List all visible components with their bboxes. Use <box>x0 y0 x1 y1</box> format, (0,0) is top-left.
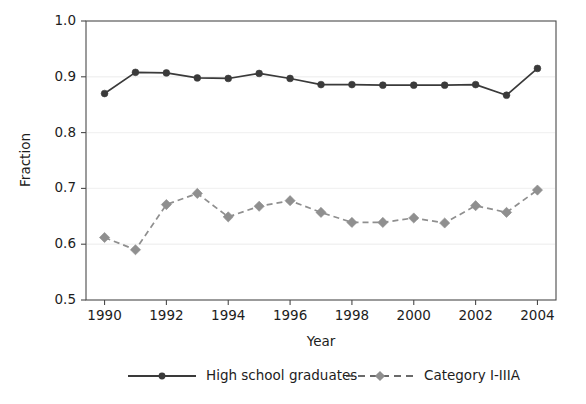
data-point-circle <box>163 69 170 76</box>
y-tick-label: 1.0 <box>55 12 76 28</box>
y-tick-label: 0.6 <box>55 235 76 251</box>
x-tick-label: 1994 <box>211 307 245 323</box>
x-tick-label: 2004 <box>520 307 554 323</box>
data-point-circle <box>318 81 325 88</box>
data-point-circle <box>194 75 201 82</box>
legend-label-secondary: Category I-IIIA <box>424 367 521 383</box>
chart-container: 0.50.60.70.80.91.0 199019921994199619982… <box>0 0 586 404</box>
data-point-circle <box>472 81 479 88</box>
y-tick-label: 0.7 <box>55 179 76 195</box>
x-tick-label: 1998 <box>335 307 369 323</box>
data-point-circle <box>349 81 356 88</box>
line-chart: 0.50.60.70.80.91.0 199019921994199619982… <box>0 0 586 404</box>
data-point-circle <box>534 65 541 72</box>
legend-marker-circle <box>159 373 166 380</box>
data-point-circle <box>441 82 448 89</box>
x-axis-title: Year <box>306 333 336 349</box>
y-tick-label: 0.9 <box>55 68 76 84</box>
x-tick-label: 2002 <box>458 307 492 323</box>
legend-label-primary: High school graduates <box>206 367 357 383</box>
data-point-circle <box>410 82 417 89</box>
data-point-circle <box>101 90 108 97</box>
data-point-circle <box>256 70 263 77</box>
x-tick-label: 2000 <box>397 307 431 323</box>
data-point-circle <box>287 75 294 82</box>
x-tick-label: 1996 <box>273 307 307 323</box>
y-tick-label: 0.5 <box>55 291 76 307</box>
data-point-circle <box>503 92 510 99</box>
y-axis-title: Fraction <box>17 133 33 187</box>
x-tick-label: 1990 <box>87 307 121 323</box>
data-point-circle <box>132 69 139 76</box>
x-tick-label: 1992 <box>149 307 183 323</box>
data-point-circle <box>379 82 386 89</box>
data-point-circle <box>225 75 232 82</box>
y-tick-label: 0.8 <box>55 124 76 140</box>
